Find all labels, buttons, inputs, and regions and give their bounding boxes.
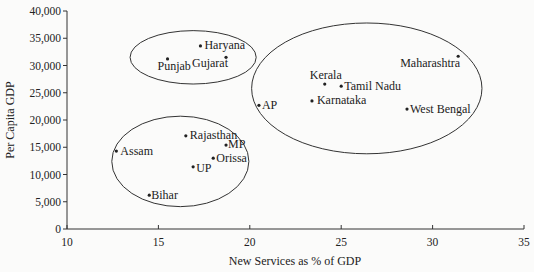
point-marker bbox=[310, 99, 313, 102]
data-point-maharashtra: Maharashtra bbox=[400, 55, 461, 71]
x-tick-label: 20 bbox=[244, 236, 256, 248]
point-marker bbox=[257, 104, 260, 107]
y-tick-label: 5,000 bbox=[35, 196, 61, 209]
data-point-karnataka: Karnataka bbox=[310, 93, 367, 107]
point-label: UP bbox=[196, 161, 212, 175]
data-point-up: UP bbox=[192, 161, 212, 175]
data-point-orissa: Orissa bbox=[212, 151, 248, 165]
y-tick-label: 20,000 bbox=[29, 114, 61, 127]
y-tick-label: 25,000 bbox=[29, 87, 61, 100]
x-tick-label: 25 bbox=[335, 236, 347, 248]
scatter-chart: 05,00010,00015,00020,00025,00030,00035,0… bbox=[0, 0, 534, 272]
point-marker bbox=[340, 85, 343, 88]
x-tick-label: 30 bbox=[427, 236, 439, 248]
data-point-gujarat: Gujarat bbox=[192, 56, 229, 71]
point-label: Bihar bbox=[151, 188, 178, 202]
data-point-assam: Assam bbox=[115, 144, 154, 158]
point-label: Karnataka bbox=[317, 93, 367, 107]
point-label: Orissa bbox=[216, 151, 247, 165]
x-tick-label: 15 bbox=[153, 236, 165, 248]
data-point-ap: AP bbox=[257, 98, 277, 112]
x-tick-label: 35 bbox=[518, 236, 530, 248]
data-point-bihar: Bihar bbox=[148, 188, 178, 202]
data-point-mp: MP bbox=[224, 137, 245, 151]
point-label: Tamil Nadu bbox=[344, 79, 401, 93]
y-axis-label: Per Capita GDP bbox=[3, 81, 17, 159]
point-label: West Bengal bbox=[410, 102, 471, 116]
point-label: Haryana bbox=[204, 38, 245, 52]
point-marker bbox=[199, 44, 202, 47]
data-point-west-bengal: West Bengal bbox=[405, 102, 471, 116]
point-label: Assam bbox=[120, 144, 153, 158]
x-axis-ticks: 101520253035 bbox=[61, 225, 530, 248]
point-marker bbox=[115, 149, 118, 152]
chart-canvas: 05,00010,00015,00020,00025,00030,00035,0… bbox=[0, 0, 534, 272]
point-label: Kerala bbox=[310, 68, 343, 82]
y-axis-ticks: 05,00010,00015,00020,00025,00030,00035,0… bbox=[29, 5, 67, 235]
point-marker bbox=[192, 165, 195, 168]
point-label: Punjab bbox=[158, 59, 191, 73]
data-point-tamil-nadu: Tamil Nadu bbox=[340, 79, 401, 93]
point-marker bbox=[405, 108, 408, 111]
point-label: Gujarat bbox=[192, 56, 229, 70]
data-point-punjab: Punjab bbox=[158, 57, 191, 73]
axes bbox=[67, 11, 524, 229]
y-tick-label: 15,000 bbox=[29, 141, 61, 154]
x-tick-label: 10 bbox=[61, 236, 73, 248]
data-point-kerala: Kerala bbox=[310, 68, 343, 86]
point-marker bbox=[184, 134, 187, 137]
x-axis-label: New Services as % of GDP bbox=[229, 254, 362, 268]
y-tick-label: 10,000 bbox=[29, 169, 61, 182]
y-tick-label: 35,000 bbox=[29, 32, 61, 45]
y-tick-label: 0 bbox=[55, 223, 61, 235]
point-marker bbox=[212, 157, 215, 160]
data-point-haryana: Haryana bbox=[199, 38, 246, 52]
point-marker bbox=[323, 82, 326, 85]
data-points: HaryanaPunjabGujaratMaharashtraKeralaTam… bbox=[115, 38, 472, 202]
y-tick-label: 30,000 bbox=[29, 60, 61, 73]
point-label: AP bbox=[262, 98, 278, 112]
point-label: Maharashtra bbox=[400, 56, 461, 70]
y-tick-label: 40,000 bbox=[29, 5, 61, 18]
point-label: MP bbox=[228, 137, 246, 151]
